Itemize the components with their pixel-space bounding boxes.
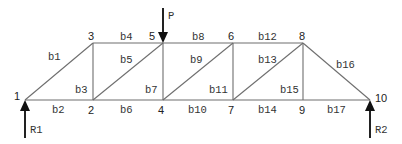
member-label: b10 [188, 104, 207, 116]
member-label: b6 [120, 104, 133, 116]
node-label: 1 [14, 90, 20, 102]
member-label: b9 [190, 54, 203, 66]
node-label: 2 [88, 104, 94, 116]
forces-layer: PR1R2 [20, 8, 388, 138]
member-b16 [303, 43, 370, 100]
member-label: b1 [48, 51, 61, 63]
truss-diagram: PR1R2 b1b2b3b4b5b6b7b8b9b10b11b12b13b14b… [0, 0, 402, 144]
node-label: 4 [158, 104, 164, 116]
reaction-arrow-icon [20, 100, 30, 138]
node-label: 9 [299, 104, 305, 116]
member-label: b11 [209, 84, 228, 96]
member-label: b12 [258, 31, 277, 43]
node-label: 3 [88, 30, 94, 42]
reaction-arrow-icon [365, 100, 375, 138]
reaction-label: R1 [30, 124, 43, 136]
member-label: b15 [280, 84, 299, 96]
member-label: b13 [258, 54, 277, 66]
node-label: 6 [228, 30, 234, 42]
member-label: b17 [327, 104, 346, 116]
node-label: 7 [228, 104, 234, 116]
member-label: b3 [75, 84, 88, 96]
member-label: b5 [120, 54, 133, 66]
member-label: b16 [336, 59, 355, 71]
member-label: b4 [120, 31, 133, 43]
reaction-label: R2 [375, 124, 388, 136]
member-label: b7 [145, 84, 158, 96]
load-arrow-icon [158, 8, 168, 43]
member-label: b8 [192, 31, 205, 43]
member-label: b2 [52, 104, 65, 116]
load-label: P [168, 10, 174, 22]
member-label: b14 [258, 104, 277, 116]
node-label: 5 [149, 30, 155, 42]
node-label: 8 [299, 30, 305, 42]
node-label: 10 [375, 92, 387, 104]
